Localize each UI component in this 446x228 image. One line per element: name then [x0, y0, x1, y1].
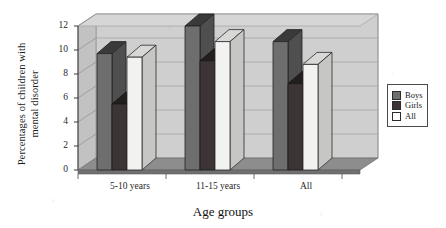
- y-tick-label-6: 6: [52, 92, 68, 102]
- x-category-label-all: All: [266, 181, 346, 191]
- legend-swatch-all-icon: [392, 112, 401, 121]
- y-tick-label-10: 10: [52, 44, 68, 54]
- bar-all-5-10: [127, 45, 156, 170]
- legend-label-all: All: [405, 112, 416, 121]
- legend-swatch-girls-icon: [392, 101, 401, 110]
- legend-label-boys: Boys: [405, 91, 422, 100]
- plot-area: [0, 0, 446, 228]
- y-tick-label-8: 8: [52, 68, 68, 78]
- legend: Boys Girls All: [387, 84, 428, 127]
- x-axis-ticks: [78, 174, 342, 179]
- y-tick-label-2: 2: [52, 140, 68, 150]
- bar-all-11-15: [215, 30, 244, 170]
- bar-all-all: [303, 52, 332, 170]
- legend-label-girls: Girls: [405, 101, 422, 110]
- y-axis-ticks: [74, 26, 78, 170]
- y-tick-label-12: 12: [52, 20, 68, 30]
- x-category-label-5-10-years: 5-10 years: [90, 181, 170, 191]
- x-category-label-11-15-years: 11-15 years: [178, 181, 258, 191]
- y-tick-label-0: 0: [52, 164, 68, 174]
- y-tick-label-4: 4: [52, 116, 68, 126]
- ceiling-strip: [78, 14, 378, 26]
- legend-swatch-boys-icon: [392, 91, 401, 100]
- legend-item-girls[interactable]: Girls: [392, 101, 422, 110]
- legend-item-all[interactable]: All: [392, 112, 422, 121]
- legend-item-boys[interactable]: Boys: [392, 91, 422, 100]
- bar-chart: Percentages of children with mental diso…: [0, 0, 446, 228]
- x-axis-title: Age groups: [0, 204, 446, 220]
